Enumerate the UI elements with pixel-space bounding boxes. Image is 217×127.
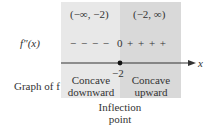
inflection-dot [118,61,123,66]
graph-of-f-label: Graph of f [14,80,60,92]
concave-upward-label: Concave upward [122,74,180,98]
concave-right-line2: upward [122,86,180,98]
concave-downward-label: Concave downward [62,74,120,98]
concave-left-line1: Concave [62,74,120,86]
inflection-point-label: Inflection point [90,101,150,125]
concave-left-line2: downward [62,86,120,98]
concave-right-line1: Concave [122,74,180,86]
inflection-line1: Inflection [90,101,150,113]
axis-variable-label: x [198,57,203,69]
inflection-line2: point [90,113,150,125]
axis-arrow-icon [188,60,196,66]
